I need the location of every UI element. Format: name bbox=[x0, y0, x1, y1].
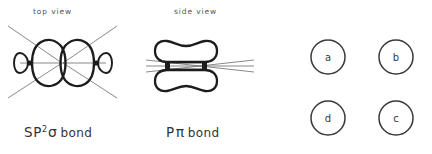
pi-upper-lobe bbox=[155, 41, 217, 62]
sigma-bond-diagram bbox=[8, 26, 117, 98]
answer-choice-c[interactable]: c bbox=[379, 101, 413, 135]
pi-right-nucleus bbox=[202, 62, 207, 70]
sigma-caption-base: SP bbox=[24, 124, 42, 140]
pi-caption-base: P bbox=[166, 124, 175, 140]
answer-choice-group: a b d c bbox=[311, 40, 413, 135]
pi-bond-caption: Pπbond bbox=[166, 124, 220, 140]
pi-caption-symbol: π bbox=[175, 124, 188, 140]
answer-choice-a[interactable]: a bbox=[311, 40, 345, 74]
pi-caption-word: bond bbox=[188, 126, 220, 140]
answer-choice-b-label: b bbox=[393, 52, 399, 63]
sigma-bond-caption: SP2σbond bbox=[24, 124, 92, 140]
orbital-bond-figure: top view side view bbox=[0, 0, 432, 154]
answer-choice-b[interactable]: b bbox=[379, 40, 413, 74]
answer-choice-d[interactable]: d bbox=[311, 101, 345, 135]
pi-lower-lobe bbox=[155, 70, 217, 91]
pi-bond-diagram bbox=[146, 41, 254, 91]
answer-choice-d-label: d bbox=[325, 113, 331, 124]
answer-choice-a-label: a bbox=[325, 52, 331, 63]
sigma-caption-symbol: σ bbox=[47, 124, 60, 140]
answer-choice-c-label: c bbox=[393, 113, 399, 124]
sigma-caption-word: bond bbox=[61, 126, 93, 140]
pi-left-nucleus bbox=[165, 62, 170, 70]
sigma-hybrid-axis-lines bbox=[8, 26, 117, 98]
